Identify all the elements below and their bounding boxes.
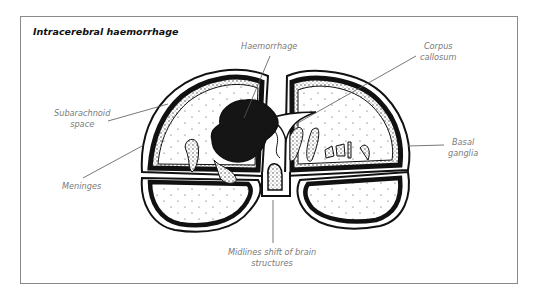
label-text: space [54,119,110,130]
label-midline-shift: Midlines shift of brain structures [228,247,316,269]
label-text: Corpus [420,41,457,52]
label-meninges: Meninges [62,181,101,192]
label-basal-ganglia: Basal ganglia [448,137,478,159]
label-text: Haemorrhage [241,41,297,51]
label-text: Meninges [62,181,101,191]
label-text: Subarachnoid [54,108,110,119]
label-text: ganglia [448,148,478,159]
label-corpus-callosum: Corpus callosum [420,41,457,63]
label-text: structures [228,258,316,269]
right-temporal-lobe [298,172,409,229]
label-text: Basal [448,137,478,148]
left-temporal-lobe [142,178,261,232]
label-text: Midlines shift of brain [228,247,316,258]
label-subarachnoid-space: Subarachnoid space [54,108,110,130]
label-text: callosum [420,52,457,63]
right-hemisphere [285,71,409,176]
label-haemorrhage: Haemorrhage [241,41,297,52]
